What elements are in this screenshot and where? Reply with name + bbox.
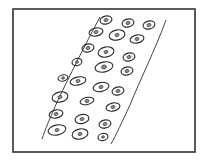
cell-nucleus bbox=[111, 105, 116, 109]
cell bbox=[48, 109, 63, 120]
cell bbox=[74, 113, 90, 125]
cell-nucleus bbox=[61, 77, 64, 80]
cell bbox=[121, 18, 134, 28]
cell bbox=[105, 102, 120, 113]
cell-nucleus bbox=[125, 69, 130, 73]
cell-nucleus bbox=[135, 37, 140, 41]
cell bbox=[71, 127, 89, 140]
cell bbox=[129, 34, 144, 45]
cell-nucleus bbox=[78, 132, 83, 136]
cell-nucleus bbox=[101, 136, 104, 139]
cell bbox=[71, 58, 82, 67]
cell bbox=[97, 45, 115, 58]
cell-nucleus bbox=[80, 117, 85, 121]
cell-nucleus bbox=[101, 65, 107, 70]
cell-nucleus bbox=[94, 30, 99, 34]
cell bbox=[97, 133, 108, 142]
cell-nucleus bbox=[104, 18, 109, 22]
cell-nucleus bbox=[86, 46, 91, 50]
cell-nucleus bbox=[103, 122, 108, 126]
cell-nucleus bbox=[116, 89, 121, 93]
cell bbox=[92, 81, 110, 93]
cell-nucleus bbox=[85, 99, 90, 103]
cell-nucleus bbox=[75, 61, 78, 64]
cell-nucleus bbox=[76, 79, 81, 83]
tissue-strip-diagram bbox=[0, 0, 210, 162]
sketch-canvas: Hand-drawn sketch of a curved tissue str… bbox=[0, 0, 210, 162]
cell bbox=[47, 123, 67, 137]
cell-nucleus bbox=[104, 50, 109, 54]
cell bbox=[79, 96, 94, 106]
cell bbox=[142, 20, 155, 30]
cell-nucleus bbox=[126, 21, 131, 25]
cell-group bbox=[47, 15, 156, 142]
cell-nucleus bbox=[54, 112, 59, 116]
cell bbox=[99, 15, 112, 25]
cell bbox=[69, 75, 86, 86]
cell bbox=[98, 119, 111, 129]
cell-nucleus bbox=[115, 33, 120, 37]
cell bbox=[111, 86, 124, 96]
cell-nucleus bbox=[147, 23, 152, 27]
cell bbox=[51, 90, 69, 103]
cell bbox=[122, 52, 135, 62]
cell bbox=[94, 60, 114, 74]
cell-nucleus bbox=[99, 85, 104, 89]
cell bbox=[108, 28, 126, 41]
cell-nucleus bbox=[55, 128, 60, 132]
cell-nucleus bbox=[58, 95, 63, 99]
cell bbox=[120, 66, 133, 76]
diagram-frame bbox=[13, 9, 195, 152]
cell bbox=[88, 27, 103, 38]
cell-nucleus bbox=[127, 55, 132, 59]
